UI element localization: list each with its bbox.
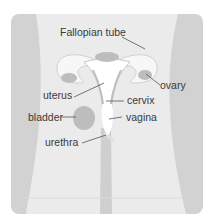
leg-gap (100, 128, 112, 214)
label-bladder: bladder (28, 112, 63, 123)
uterus-fundus (95, 52, 119, 62)
label-cervix: cervix (127, 95, 154, 106)
label-ovary: ovary (160, 80, 186, 91)
right-ovary (138, 70, 152, 80)
label-vagina: vagina (126, 112, 157, 123)
left-ovary (61, 73, 77, 83)
label-uterus: uterus (43, 90, 72, 101)
anatomy-diagram: Fallopian tube ovary uterus cervix bladd… (0, 0, 213, 222)
bladder-shape (73, 106, 95, 130)
label-urethra: urethra (45, 137, 78, 148)
label-fallopian-tube: Fallopian tube (60, 27, 126, 38)
